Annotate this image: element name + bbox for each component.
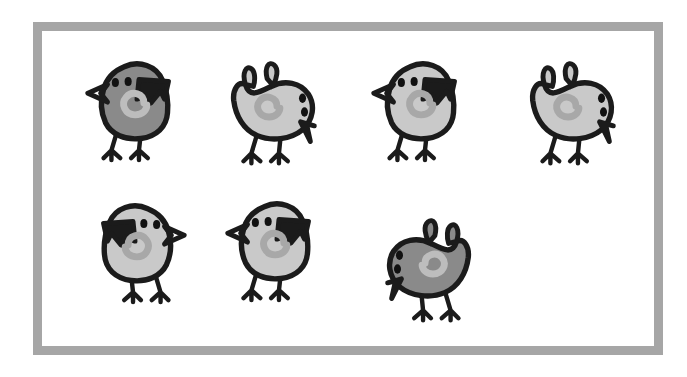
bird-6-drawing (218, 188, 336, 306)
bird-1-drawing (78, 48, 196, 166)
bird-5 (76, 190, 194, 308)
bird-3 (364, 48, 482, 166)
bird-1 (78, 48, 196, 166)
bird-4-drawing (515, 55, 633, 173)
bird-6 (218, 188, 336, 306)
bird-7-drawing (368, 212, 486, 330)
bird-3-drawing (364, 48, 482, 166)
bird-5-drawing (76, 190, 194, 308)
bird-stage (42, 31, 654, 346)
bird-2-drawing (216, 55, 334, 173)
photo-frame (33, 22, 663, 355)
image-canvas (0, 0, 687, 377)
bird-7 (368, 212, 486, 330)
bird-2 (216, 55, 334, 173)
bird-4 (515, 55, 633, 173)
